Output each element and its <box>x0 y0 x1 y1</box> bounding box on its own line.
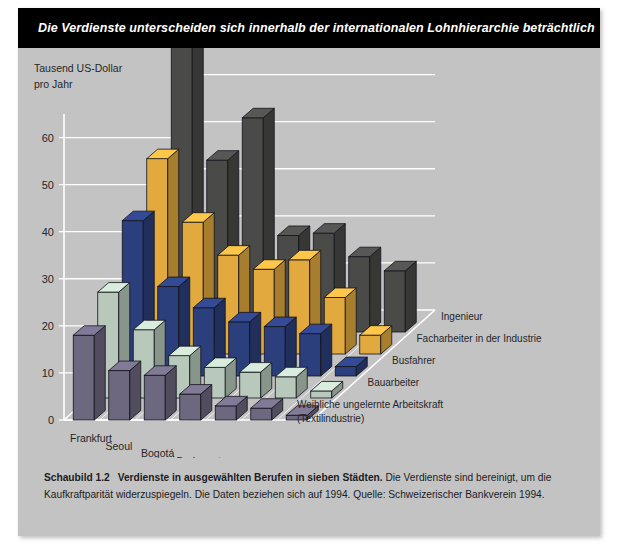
y-tick-label: 60 <box>42 132 54 144</box>
bar-nairobi-s2 <box>335 357 367 376</box>
legend-label: Facharbeiter in der Industrie <box>417 333 543 344</box>
legend-label: Busfahrer <box>392 355 436 366</box>
y-tick-labels: 0102030405060 <box>42 132 54 426</box>
caption-figure-number: Schaubild 1.2 <box>44 472 110 483</box>
legend-label: Weibliche ungelernte Arbeitskraft <box>297 399 443 410</box>
bar-jakarta-s0 <box>215 396 247 420</box>
bar-bogot-s0 <box>144 366 176 420</box>
caption-block: Schaubild 1.2Verdienste in ausgewählten … <box>18 458 600 536</box>
y-tick-label: 0 <box>48 414 54 426</box>
category-label: Bogotá <box>141 447 174 458</box>
bar-budapest-s0 <box>180 385 212 420</box>
y-tick-label: 50 <box>42 179 54 191</box>
banner-title: Die Verdienste unterscheiden sich innerh… <box>18 21 595 35</box>
bar-chart-3d: 0102030405060 FrankfurtSeoulBogotáBudape… <box>18 48 600 458</box>
y-axis-title: Tausend US-Dollarpro Jahr <box>34 62 123 90</box>
y-tick-label: 30 <box>42 273 54 285</box>
caption-headline: Verdienste in ausgewählten Berufen in si… <box>118 472 383 483</box>
legend-label: Bauarbeiter <box>368 377 420 388</box>
bar-nairobi-s1 <box>311 381 343 398</box>
plot-area: 0102030405060 FrankfurtSeoulBogotáBudape… <box>18 48 600 458</box>
category-label: Seoul <box>106 440 133 452</box>
caption-text: Schaubild 1.2Verdienste in ausgewählten … <box>44 470 574 503</box>
y-axis-title-line: pro Jahr <box>34 78 73 90</box>
legend-label: Ingenieur <box>441 311 483 322</box>
legend-label: (Textilindustrie) <box>297 413 364 424</box>
y-axis-title-line: Tausend US-Dollar <box>34 62 123 74</box>
bar-bombay-s0 <box>251 399 283 420</box>
bars-group <box>73 48 416 420</box>
title-banner: Die Verdienste unterscheiden sich innerh… <box>18 8 600 48</box>
y-tick-label: 10 <box>42 367 54 379</box>
bar-jakarta-s1 <box>240 363 272 398</box>
bar-seoul-s0 <box>109 361 141 420</box>
bar-nairobi-s4 <box>384 261 416 332</box>
y-tick-label: 20 <box>42 320 54 332</box>
figure-root: Die Verdienste unterscheiden sich innerh… <box>0 0 618 552</box>
y-tick-label: 40 <box>42 226 54 238</box>
bar-frankfurt-s0 <box>73 326 105 420</box>
category-labels: FrankfurtSeoulBogotáBudapestJakartaBomba… <box>70 432 316 458</box>
